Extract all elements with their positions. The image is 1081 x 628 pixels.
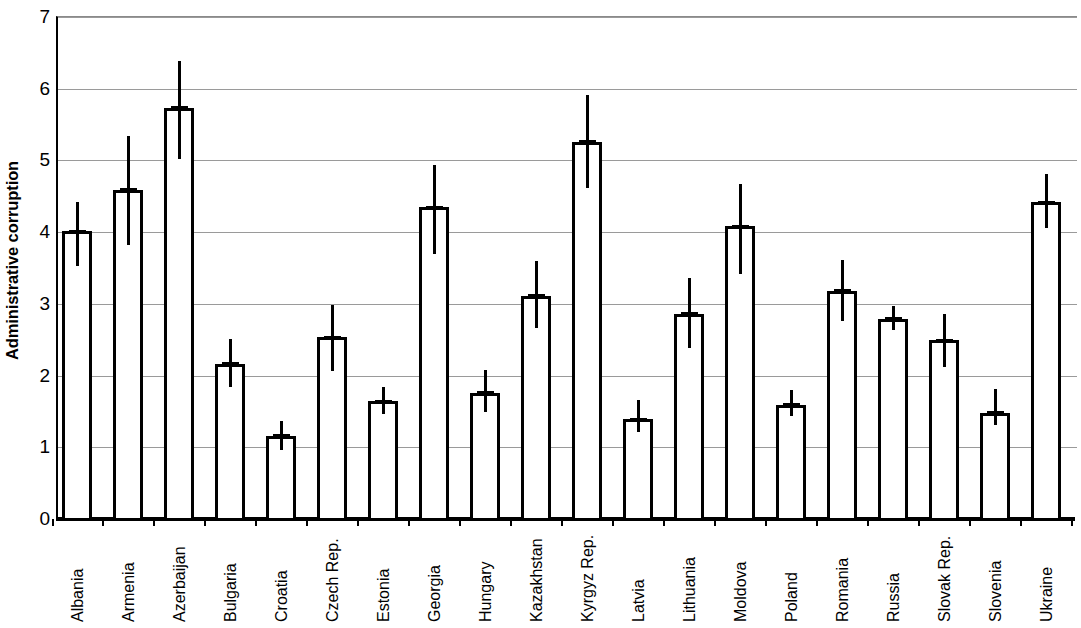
bar	[827, 291, 857, 518]
error-bar-cap	[681, 312, 698, 315]
error-bar	[76, 202, 79, 265]
y-axis-tick-label: 4	[6, 222, 50, 241]
error-bar-cap	[885, 317, 902, 320]
x-axis-tick	[663, 519, 665, 526]
x-axis-tick	[612, 519, 614, 526]
x-axis-tick-label: Ukraine	[996, 528, 1081, 628]
error-bar-cap	[936, 339, 953, 342]
error-bar-cap	[426, 206, 443, 209]
error-bar-cap	[834, 289, 851, 292]
bar	[980, 413, 1010, 518]
x-axis-tick	[1020, 519, 1022, 526]
y-axis-tick-label: 2	[6, 365, 50, 384]
bar	[776, 405, 806, 518]
gridline	[58, 89, 1077, 90]
x-axis-tick	[561, 519, 563, 526]
x-axis-tick	[52, 519, 54, 526]
x-axis-tick	[408, 519, 410, 526]
bar	[62, 231, 92, 518]
error-bar	[637, 400, 640, 432]
y-axis-tick-labels: 01234567	[0, 0, 50, 540]
x-axis-tick	[867, 519, 869, 526]
error-bar-cap	[987, 411, 1004, 414]
y-axis-tick-label: 1	[6, 437, 50, 456]
error-bar-cap	[324, 336, 341, 339]
x-axis-tick-label-text: Ukraine	[1039, 567, 1055, 622]
gridline	[58, 447, 1077, 448]
error-bar	[739, 184, 742, 274]
bar	[1031, 202, 1061, 518]
error-bar-cap	[732, 225, 749, 228]
gridline	[58, 376, 1077, 377]
x-axis-tick	[765, 519, 767, 526]
error-bar-cap	[630, 418, 647, 421]
error-bar-cap	[579, 140, 596, 143]
error-bar	[994, 389, 997, 425]
x-axis-tick	[357, 519, 359, 526]
error-bar	[178, 61, 181, 159]
gridline	[58, 17, 1077, 18]
x-axis-line	[56, 517, 1075, 521]
error-bar-cap	[69, 230, 86, 233]
error-bar	[433, 165, 436, 254]
x-axis-tick	[153, 519, 155, 526]
error-bar-cap	[1038, 201, 1055, 204]
x-axis-tick	[816, 519, 818, 526]
y-axis-tick-label: 7	[6, 7, 50, 26]
x-axis-tick	[969, 519, 971, 526]
y-axis-tick-label: 0	[6, 509, 50, 528]
x-axis-tick	[255, 519, 257, 526]
bar	[572, 142, 602, 519]
error-bar-cap	[222, 362, 239, 365]
x-axis-tick	[918, 519, 920, 526]
error-bar-cap	[477, 391, 494, 394]
bar	[878, 319, 908, 518]
plot-area	[56, 16, 1077, 519]
bar	[521, 296, 551, 518]
error-bar-cap	[171, 106, 188, 109]
bar	[164, 108, 194, 518]
y-axis-tick-label: 6	[6, 78, 50, 97]
error-bar-cap	[120, 188, 137, 191]
gridline	[58, 232, 1077, 233]
error-bar-cap	[528, 294, 545, 297]
y-axis-tick-label: 5	[6, 150, 50, 169]
x-axis-tick	[459, 519, 461, 526]
error-bar-cap	[273, 434, 290, 437]
x-axis-tick	[102, 519, 104, 526]
x-axis-tick	[1071, 519, 1073, 526]
gridline	[58, 160, 1077, 161]
x-axis-tick	[714, 519, 716, 526]
x-axis-tick	[204, 519, 206, 526]
bar	[368, 401, 398, 518]
error-bar-cap	[783, 403, 800, 406]
y-axis-tick-label: 3	[6, 293, 50, 312]
x-axis-tick	[510, 519, 512, 526]
plot-background	[58, 17, 1077, 519]
bar	[623, 419, 653, 518]
x-axis-tick	[306, 519, 308, 526]
error-bar-cap	[375, 400, 392, 403]
gridline	[58, 304, 1077, 305]
